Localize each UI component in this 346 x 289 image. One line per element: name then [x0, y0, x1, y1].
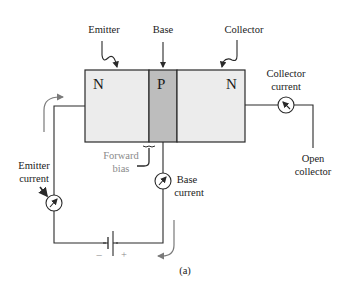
forward-bias-label-line1: Forward: [100, 150, 142, 162]
emitter-current-label-line2: current: [14, 173, 54, 185]
forward-bias-label-line2: bias: [100, 163, 142, 175]
figure-caption: (a): [174, 265, 196, 277]
transistor-diagram: [0, 0, 346, 289]
open-collector-label-line1: Open: [290, 153, 336, 165]
forward-bias-brace-icon: [143, 146, 155, 147]
collector-current-meter-icon: [278, 97, 294, 113]
base-flow-arrow: [158, 220, 174, 256]
base-region-label: P: [157, 76, 165, 92]
battery-plus-label: +: [119, 249, 129, 261]
emitter-label: Emitter: [84, 24, 124, 36]
collector-region-label: N: [226, 76, 237, 92]
emitter-current-label-line1: Emitter: [14, 160, 54, 172]
battery-icon: [103, 231, 118, 256]
base-label: Base: [148, 24, 178, 36]
collector-pointer-arrow: [222, 40, 237, 67]
collector-current-label-line2: current: [262, 81, 310, 93]
base-current-label-line1: Base: [172, 174, 202, 186]
collector-current-label-line1: Collector: [262, 68, 310, 80]
open-collector-label-line2: collector: [290, 166, 336, 178]
collector-label: Collector: [221, 24, 267, 36]
battery-minus-label: –: [94, 249, 104, 261]
base-current-meter-icon: [155, 173, 171, 189]
emitter-region-label: N: [93, 76, 104, 92]
base-current-label-line2: current: [172, 187, 206, 199]
emitter-pointer-arrow: [102, 41, 117, 67]
emitter-current-meter-icon: [46, 195, 62, 211]
collector-wire: [245, 105, 313, 148]
emitter-current-pointer: [40, 187, 47, 196]
